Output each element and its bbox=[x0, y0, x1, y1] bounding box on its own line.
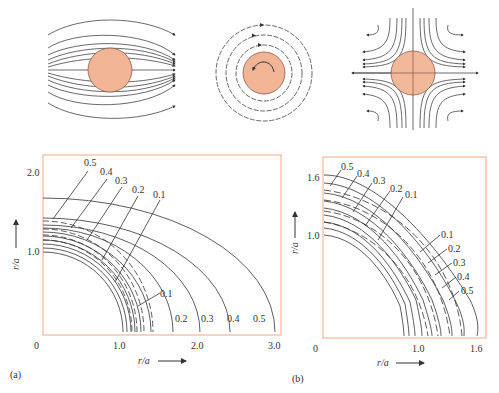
svg-text:0.4: 0.4 bbox=[457, 271, 470, 282]
svg-text:0.1: 0.1 bbox=[160, 288, 173, 299]
chart-a: 0.5 0.4 0.3 0.2 0.1 0.1 0.2 0.3 0.4 0.5 … bbox=[10, 155, 281, 381]
svg-text:0.4: 0.4 bbox=[357, 168, 370, 179]
chart-b-ylabel: r/a bbox=[289, 242, 300, 254]
svg-text:3.0: 3.0 bbox=[268, 340, 281, 351]
svg-text:0.2: 0.2 bbox=[132, 184, 145, 195]
panel-label-b: (b) bbox=[292, 373, 304, 385]
svg-text:1.6: 1.6 bbox=[470, 343, 483, 354]
chart-b-xlabel: r/a bbox=[377, 357, 389, 368]
svg-text:0.5: 0.5 bbox=[341, 161, 354, 172]
svg-text:0.5: 0.5 bbox=[84, 157, 97, 168]
svg-text:1.0: 1.0 bbox=[307, 230, 320, 241]
svg-text:1.0: 1.0 bbox=[113, 340, 126, 351]
curve-a-solid-0.1 bbox=[43, 232, 151, 332]
svg-text:0.5: 0.5 bbox=[253, 313, 266, 324]
cylinder-left bbox=[88, 48, 132, 92]
svg-text:0.3: 0.3 bbox=[453, 257, 466, 268]
svg-text:0: 0 bbox=[34, 340, 39, 351]
svg-text:0.2: 0.2 bbox=[448, 243, 461, 254]
svg-text:0.1: 0.1 bbox=[153, 189, 166, 200]
curve-a-dashed-0.4 bbox=[43, 229, 144, 332]
chart-a-ylabel: r/a bbox=[10, 258, 21, 270]
svg-text:0.2: 0.2 bbox=[175, 313, 188, 324]
curve-a-dashed-0.2 bbox=[43, 240, 132, 332]
chart-a-curve-labels: 0.5 0.4 0.3 0.2 0.1 0.1 0.2 0.3 0.4 0.5 bbox=[84, 157, 266, 324]
panel-label-a: (a) bbox=[10, 369, 21, 381]
figure: 0.5 0.4 0.3 0.2 0.1 0.1 0.2 0.3 0.4 0.5 … bbox=[0, 0, 499, 393]
svg-text:0.1: 0.1 bbox=[405, 189, 418, 200]
svg-text:0.3: 0.3 bbox=[201, 313, 214, 324]
svg-text:0.3: 0.3 bbox=[373, 175, 386, 186]
curve-a-solid-0.2 bbox=[43, 228, 173, 332]
svg-text:0.3: 0.3 bbox=[115, 175, 128, 186]
cylinder-middle bbox=[243, 52, 285, 94]
chart-a-frame bbox=[43, 155, 281, 335]
svg-text:1.0: 1.0 bbox=[27, 246, 40, 257]
svg-text:0.2: 0.2 bbox=[390, 183, 403, 194]
svg-text:1.0: 1.0 bbox=[412, 343, 425, 354]
chart-a-xlabel: r/a bbox=[138, 355, 150, 366]
chart-b: 0.5 0.4 0.3 0.2 0.1 0.1 0.2 0.3 0.4 0.5 … bbox=[289, 157, 486, 385]
svg-text:0.4: 0.4 bbox=[227, 313, 240, 324]
svg-text:0.5: 0.5 bbox=[461, 285, 474, 296]
chart-b-frame bbox=[323, 157, 486, 338]
svg-text:2.0: 2.0 bbox=[27, 167, 40, 178]
svg-text:0.1: 0.1 bbox=[441, 229, 454, 240]
svg-text:1.6: 1.6 bbox=[307, 172, 320, 183]
svg-text:0: 0 bbox=[313, 343, 318, 354]
svg-text:0.4: 0.4 bbox=[100, 166, 113, 177]
svg-text:2.0: 2.0 bbox=[191, 340, 204, 351]
